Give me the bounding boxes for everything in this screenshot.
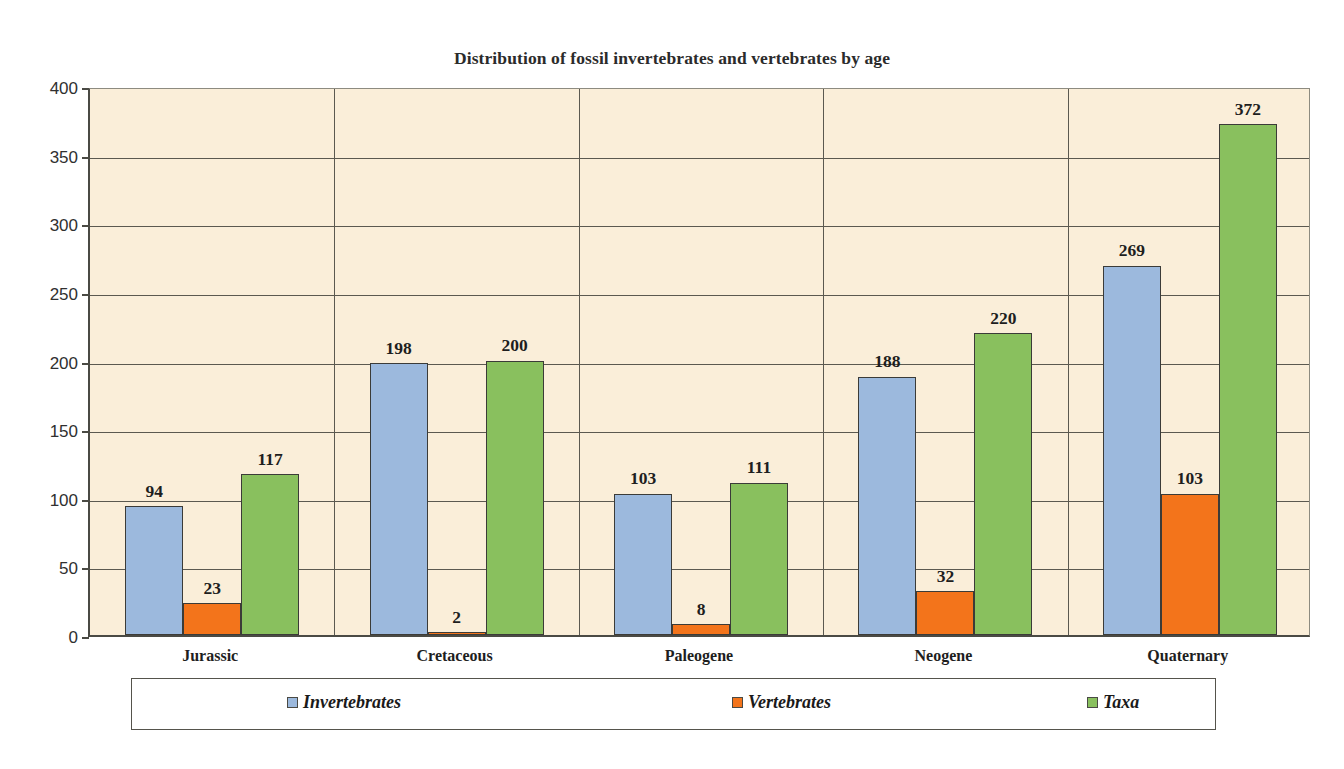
chart-legend: InvertebratesVertebratesTaxa <box>131 678 1216 730</box>
bar-value-label: 103 <box>602 470 684 488</box>
bar[interactable] <box>858 377 916 635</box>
bar[interactable] <box>183 603 241 635</box>
y-axis-tick-label: 100 <box>8 492 78 509</box>
plot-area: 94231171982200103811118832220269103372 <box>88 88 1310 637</box>
x-axis-category-label: Quaternary <box>1066 648 1310 664</box>
x-axis-category-label: Jurassic <box>88 648 332 664</box>
bar[interactable] <box>486 361 544 636</box>
bar-value-label: 200 <box>474 337 556 355</box>
legend-label: Invertebrates <box>303 693 401 711</box>
bar[interactable] <box>241 474 299 635</box>
y-axis-tick-mark <box>82 88 89 90</box>
legend-label: Vertebrates <box>748 693 831 711</box>
y-axis-tick-mark <box>82 637 89 639</box>
bar-value-label: 372 <box>1207 101 1289 119</box>
x-axis-category-label: Paleogene <box>577 648 821 664</box>
category-separator-line <box>334 89 335 635</box>
bar[interactable] <box>672 624 730 635</box>
bar[interactable] <box>428 632 486 635</box>
y-axis-tick-label: 200 <box>8 355 78 372</box>
x-axis-category-label: Neogene <box>821 648 1065 664</box>
category-separator-line <box>579 89 580 635</box>
bar-group-quaternary: 269103372 <box>1103 89 1277 635</box>
y-axis-tick-mark <box>82 363 89 365</box>
bar[interactable] <box>125 506 183 635</box>
bar[interactable] <box>1103 266 1161 635</box>
bar-group-jurassic: 9423117 <box>125 89 299 635</box>
legend-entry-invertebrates[interactable]: Invertebrates <box>287 693 401 711</box>
bar-chart: Distribution of fossil invertebrates and… <box>0 0 1344 769</box>
bar-group-neogene: 18832220 <box>858 89 1032 635</box>
bar-group-paleogene: 1038111 <box>614 89 788 635</box>
bar[interactable] <box>730 483 788 635</box>
legend-entry-taxa[interactable]: Taxa <box>1087 693 1139 711</box>
y-axis-tick-label: 150 <box>8 423 78 440</box>
bar-value-label: 198 <box>358 340 440 358</box>
bar[interactable] <box>1161 494 1219 635</box>
y-axis-tick-mark <box>82 294 89 296</box>
y-axis-tick-label: 250 <box>8 286 78 303</box>
bar-value-label: 111 <box>718 459 800 477</box>
bar-value-label: 94 <box>113 483 195 501</box>
legend-label: Taxa <box>1103 693 1139 711</box>
legend-swatch-icon <box>732 697 743 708</box>
category-separator-line <box>823 89 824 635</box>
legend-swatch-icon <box>1087 697 1098 708</box>
chart-title: Distribution of fossil invertebrates and… <box>0 48 1344 69</box>
x-axis-category-label: Cretaceous <box>332 648 576 664</box>
y-axis-tick-mark <box>82 157 89 159</box>
bar[interactable] <box>916 591 974 635</box>
y-axis-tick-mark <box>82 568 89 570</box>
bar-group-cretaceous: 1982200 <box>370 89 544 635</box>
y-axis-tick-label: 300 <box>8 217 78 234</box>
bar-value-label: 117 <box>229 451 311 469</box>
y-axis-tick-mark <box>82 225 89 227</box>
bar[interactable] <box>974 333 1032 635</box>
y-axis-tick-mark <box>82 431 89 433</box>
bar-value-label: 220 <box>962 310 1044 328</box>
y-axis-tick-mark <box>82 500 89 502</box>
bar[interactable] <box>1219 124 1277 635</box>
y-axis-tick-label: 400 <box>8 80 78 97</box>
y-axis-tick-label: 50 <box>8 560 78 577</box>
y-axis-tick-label: 0 <box>8 629 78 646</box>
bar-value-label: 188 <box>846 353 928 371</box>
y-axis-tick-label: 350 <box>8 149 78 166</box>
bar-value-label: 269 <box>1091 242 1173 260</box>
bar[interactable] <box>370 363 428 635</box>
legend-swatch-icon <box>287 697 298 708</box>
category-separator-line <box>1068 89 1069 635</box>
legend-entry-vertebrates[interactable]: Vertebrates <box>732 693 831 711</box>
